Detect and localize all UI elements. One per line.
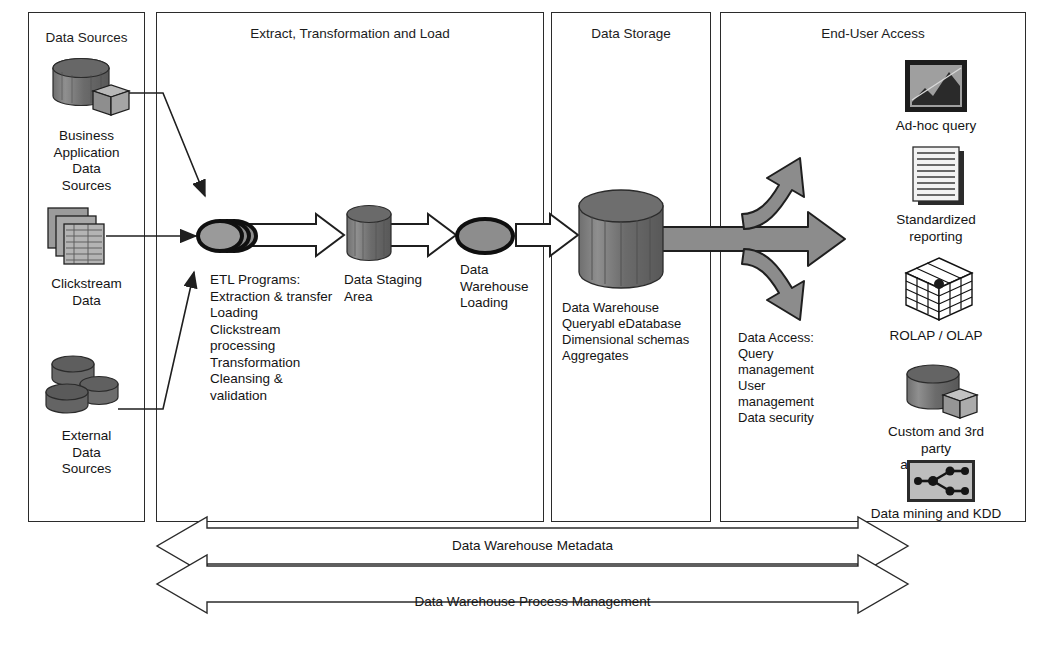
icon-olap-cube <box>902 256 976 324</box>
label-external-data-sources: External Data Sources <box>28 428 145 478</box>
icon-ellipse-warehouse-loading <box>452 212 518 260</box>
arrow-warehouse-fanout <box>648 158 845 320</box>
icon-data-mining-graph-kdd <box>905 458 977 504</box>
icon-database-cube-custom-apps <box>902 362 982 422</box>
label-data-staging-area: Data Staging Area <box>344 272 464 305</box>
arrow-loading-to-warehouse <box>516 214 578 256</box>
label-rolap-olap: ROLAP / OLAP <box>840 328 1032 345</box>
label-data-warehouse-process-management: Data Warehouse Process Management <box>157 594 908 611</box>
diagram-canvas: Data Sources Extract, Transformation and… <box>0 0 1053 647</box>
label-standardized-reporting: Standardized reporting <box>840 212 1032 245</box>
icon-report-pages-standardized <box>910 145 968 207</box>
label-data-mining-kdd: Data mining and KDD <box>840 506 1032 523</box>
icon-database-cube-business <box>48 54 134 118</box>
icon-large-cylinder-data-warehouse <box>574 188 668 294</box>
label-clickstream-data: Clickstream Data <box>28 276 145 309</box>
icon-multiple-disks-external <box>44 352 128 422</box>
icon-stacked-ellipses-etl-process <box>196 208 260 264</box>
label-ad-hoc-query: Ad-hoc query <box>840 118 1032 135</box>
arrow-staging-to-loading <box>389 214 456 256</box>
label-data-warehouse-metadata: Data Warehouse Metadata <box>157 538 908 555</box>
icon-stacked-tables-clickstream <box>44 206 116 270</box>
label-data-warehouse: Data Warehouse Queryabl eDatabase Dimens… <box>562 300 718 364</box>
label-business-application-data-sources: Business Application Data Sources <box>28 128 145 194</box>
icon-chart-query-adhoc <box>903 58 969 114</box>
arrow-etl-to-staging <box>249 214 344 256</box>
icon-cylinder-data-staging <box>343 204 395 268</box>
